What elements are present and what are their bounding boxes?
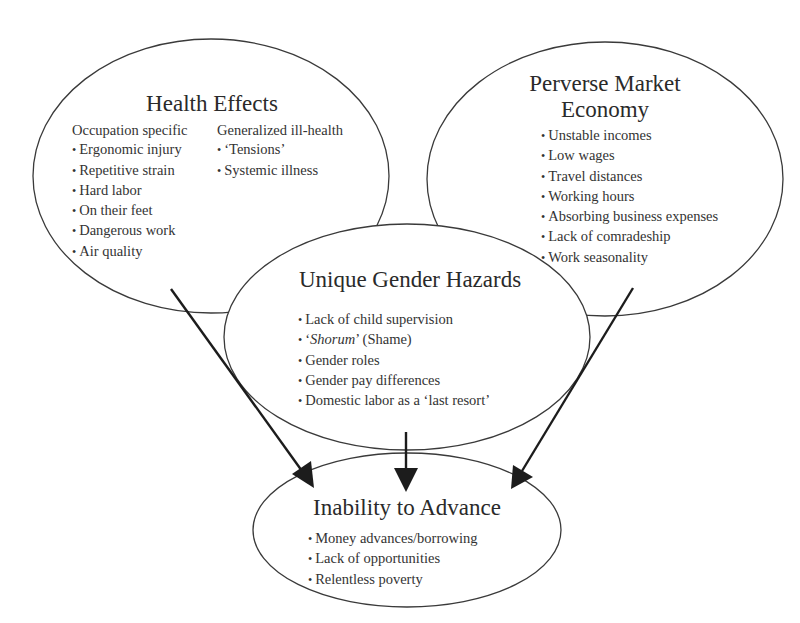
perverse-market-title: Perverse Market Economy [505, 71, 705, 123]
list-item: ‘Tensions’ [217, 140, 343, 160]
health-effects-title: Health Effects [137, 91, 287, 117]
list-item: Domestic labor as a ‘last resort’ [298, 391, 490, 411]
list-item: Travel distances [541, 167, 718, 187]
list-item: Systemic illness [217, 161, 343, 181]
list-item: Air quality [72, 242, 188, 262]
list-item: Lack of comradeship [541, 227, 718, 247]
gender-hazards-title: Unique Gender Hazards [280, 267, 540, 293]
list-item: Work seasonality [541, 248, 718, 268]
list-item: Hard labor [72, 181, 188, 201]
inability-list: Money advances/borrowing Lack of opportu… [308, 529, 477, 590]
list-item: Gender roles [298, 351, 490, 371]
list-item: Lack of opportunities [308, 549, 477, 569]
list-item: Gender pay differences [298, 371, 490, 391]
list-item: On their feet [72, 201, 188, 221]
gender-hazards-list: Lack of child supervision ‘Shorum’ (Sham… [298, 310, 490, 411]
list-item: Money advances/borrowing [308, 529, 477, 549]
occupation-specific-heading: Occupation specific [72, 121, 188, 140]
list-item: Repetitive strain [72, 161, 188, 181]
list-item: Ergonomic injury [72, 140, 188, 160]
inability-title: Inability to Advance [297, 495, 517, 521]
shorum-suffix: ’ (Shame) [355, 331, 412, 347]
perverse-market-title-line1: Perverse Market [505, 71, 705, 97]
list-item-shorum: ‘Shorum’ (Shame) [298, 330, 490, 350]
generalized-ill-health-heading: Generalized ill-health [217, 121, 343, 140]
perverse-market-list: Unstable incomes Low wages Travel distan… [541, 126, 718, 268]
list-item: Working hours [541, 187, 718, 207]
list-item: Lack of child supervision [298, 310, 490, 330]
list-item: Relentless poverty [308, 570, 477, 590]
perverse-market-title-line2: Economy [505, 97, 705, 123]
occupation-specific-group: Occupation specific Ergonomic injury Rep… [72, 121, 188, 262]
shorum-italic: Shorum [310, 331, 355, 347]
list-item: Unstable incomes [541, 126, 718, 146]
generalized-ill-health-group: Generalized ill-health ‘Tensions’ System… [217, 121, 343, 181]
list-item: Low wages [541, 146, 718, 166]
list-item: Absorbing business expenses [541, 207, 718, 227]
list-item: Dangerous work [72, 221, 188, 241]
